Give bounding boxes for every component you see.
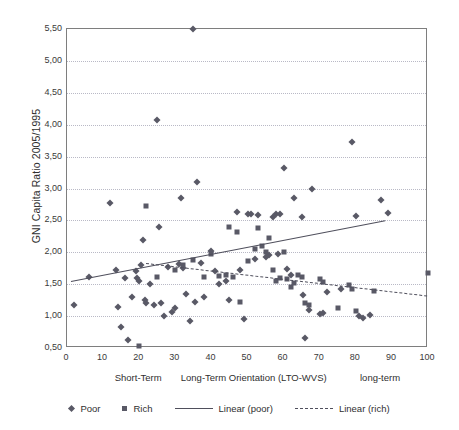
data-point-rich — [245, 259, 250, 264]
diamond-marker-icon — [68, 405, 75, 412]
legend-item[interactable]: Poor — [69, 403, 100, 414]
x-tick-label: 20 — [118, 352, 158, 362]
data-point-rich — [270, 268, 275, 273]
x-axis-captions: Short-TermLong-Term Orientation (LTO-WVS… — [0, 372, 459, 388]
data-point-rich — [335, 306, 340, 311]
data-point-poor — [215, 281, 222, 288]
y-tick-label: 2,00 — [32, 246, 62, 256]
data-point-poor — [190, 25, 197, 32]
data-point-poor — [128, 293, 135, 300]
square-marker-icon — [122, 406, 127, 411]
x-axis-caption: Short-Term — [115, 372, 162, 383]
data-point-poor — [367, 311, 374, 318]
x-tick-label: 60 — [263, 352, 303, 362]
data-point-poor — [193, 179, 200, 186]
data-point-rich — [299, 274, 304, 279]
data-point-poor — [255, 212, 262, 219]
data-point-rich — [137, 344, 142, 349]
x-tick-label: 40 — [190, 352, 230, 362]
data-point-poor — [177, 195, 184, 202]
data-point-poor — [280, 165, 287, 172]
data-point-rich — [306, 302, 311, 307]
data-point-poor — [114, 303, 121, 310]
data-point-rich — [144, 204, 149, 209]
data-point-rich — [426, 270, 431, 275]
data-point-rich — [173, 268, 178, 273]
data-point-poor — [300, 291, 307, 298]
solid-line-icon — [175, 408, 213, 409]
x-tick-label: 10 — [82, 352, 122, 362]
data-point-poor — [136, 277, 143, 284]
data-point-poor — [125, 337, 132, 344]
legend-label: Poor — [80, 403, 100, 414]
x-tick-label: 0 — [46, 352, 86, 362]
legend-label: Linear (rich) — [339, 403, 390, 414]
legend-item[interactable]: Rich — [122, 403, 152, 414]
data-point-rich — [281, 250, 286, 255]
data-point-poor — [107, 200, 114, 207]
data-point-poor — [276, 210, 283, 217]
data-point-rich — [234, 229, 239, 234]
data-point-poor — [186, 317, 193, 324]
chart-root: GNI Capita Ratio 2005/1995 0,501,001,502… — [0, 0, 459, 430]
data-point-poor — [139, 236, 146, 243]
legend-item[interactable]: Linear (rich) — [295, 403, 390, 414]
y-tick-label: 4,00 — [32, 119, 62, 129]
y-tick-label: 5,50 — [32, 23, 62, 33]
data-point-rich — [216, 273, 221, 278]
data-point-poor — [240, 316, 247, 323]
data-point-poor — [146, 281, 153, 288]
data-point-poor — [302, 335, 309, 342]
data-point-rich — [353, 308, 358, 313]
y-tick-label: 0,50 — [32, 342, 62, 352]
x-axis-caption: long-term — [360, 372, 400, 383]
data-point-poor — [121, 274, 128, 281]
x-tick-label: 100 — [407, 352, 447, 362]
data-point-poor — [305, 306, 312, 313]
data-point-poor — [192, 299, 199, 306]
x-tick-label: 80 — [335, 352, 375, 362]
x-tick-label: 70 — [299, 352, 339, 362]
data-point-poor — [71, 302, 78, 309]
data-point-poor — [197, 260, 204, 267]
data-point-poor — [385, 209, 392, 216]
data-point-poor — [251, 255, 258, 262]
data-point-poor — [323, 288, 330, 295]
data-point-poor — [352, 212, 359, 219]
data-point-rich — [238, 300, 243, 305]
data-point-rich — [267, 236, 272, 241]
data-point-poor — [359, 314, 366, 321]
data-point-poor — [378, 196, 385, 203]
data-point-rich — [202, 274, 207, 279]
y-tick-label: 4,50 — [32, 87, 62, 97]
y-tick-label: 2,50 — [32, 214, 62, 224]
y-tick-label: 1,00 — [32, 310, 62, 320]
plot-area — [66, 28, 427, 347]
y-tick-label: 1,50 — [32, 278, 62, 288]
legend-label: Rich — [133, 403, 152, 414]
data-point-poor — [349, 138, 356, 145]
x-tick-label: 30 — [154, 352, 194, 362]
data-points-layer — [67, 29, 426, 346]
data-point-poor — [291, 195, 298, 202]
data-point-poor — [226, 297, 233, 304]
data-point-poor — [118, 323, 125, 330]
legend-item[interactable]: Linear (poor) — [175, 403, 273, 414]
data-point-rich — [263, 250, 268, 255]
data-point-rich — [252, 247, 257, 252]
x-tick-label: 90 — [371, 352, 411, 362]
data-point-poor — [201, 293, 208, 300]
y-tick-label: 3,50 — [32, 151, 62, 161]
data-point-rich — [227, 224, 232, 229]
data-point-rich — [256, 226, 261, 231]
data-point-poor — [157, 299, 164, 306]
data-point-poor — [222, 277, 229, 284]
data-point-poor — [161, 313, 168, 320]
data-point-poor — [156, 223, 163, 230]
y-tick-label: 5,00 — [32, 55, 62, 65]
data-point-poor — [172, 304, 179, 311]
dashed-line-icon — [295, 408, 333, 409]
data-point-rich — [231, 274, 236, 279]
data-point-poor — [233, 209, 240, 216]
data-point-poor — [309, 186, 316, 193]
